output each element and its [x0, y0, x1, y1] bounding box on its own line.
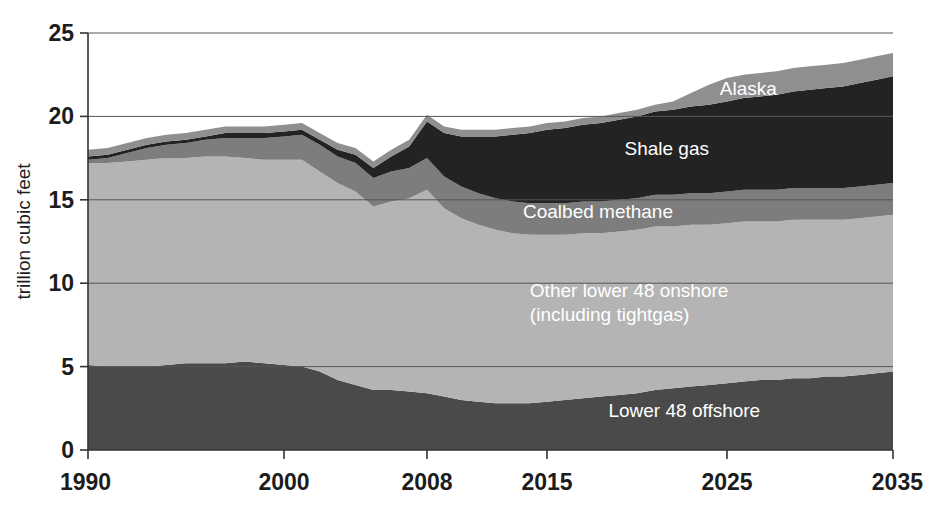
y-tick-label-25: 25: [48, 20, 74, 46]
stacked-area-chart: 0510152025 199020002008201520252035 tril…: [0, 0, 936, 512]
y-tick-label-15: 15: [48, 187, 74, 213]
y-tick-label-0: 0: [61, 437, 74, 463]
series-label-shale-gas: Shale gas: [624, 138, 709, 159]
x-tick-label-2025: 2025: [701, 469, 752, 495]
series-label-coalbed-methane: Coalbed methane: [523, 201, 673, 222]
chart-canvas: 0510152025 199020002008201520252035 tril…: [0, 0, 936, 512]
y-tick-label-5: 5: [61, 354, 74, 380]
y-axis-title-text: trillion cubic feet: [13, 163, 34, 300]
x-tick-label-2008: 2008: [401, 469, 452, 495]
series-label-lower-48-offshore: Lower 48 offshore: [608, 400, 760, 421]
y-tick-label-20: 20: [48, 103, 74, 129]
series-label-alaska: Alaska: [720, 78, 777, 99]
x-tick-label-2035: 2035: [872, 469, 923, 495]
x-tick-label-1990: 1990: [60, 469, 111, 495]
x-tick-label-2015: 2015: [521, 469, 572, 495]
y-tick-label-10: 10: [48, 270, 74, 296]
y-axis-title: trillion cubic feet: [13, 163, 34, 300]
x-tick-label-2000: 2000: [258, 469, 309, 495]
